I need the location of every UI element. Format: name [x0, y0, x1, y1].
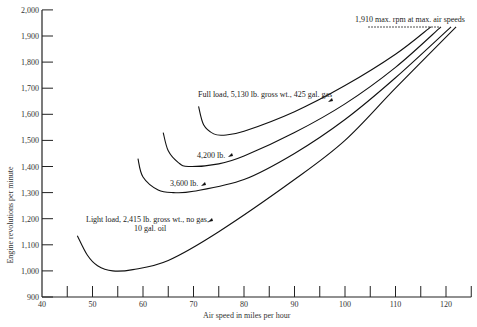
y-tick-label: 1,500: [21, 136, 39, 145]
y-tick-label: 1,100: [21, 241, 39, 250]
arrow-3600-icon: [201, 182, 206, 186]
x-tick-label: 80: [240, 300, 248, 309]
y-tick-label: 1,800: [21, 58, 39, 67]
y-tick-label: 1,400: [21, 163, 39, 172]
axes: 9001,0001,1001,2001,3001,4001,5001,6001,…: [21, 6, 471, 309]
y-tick-label: 1,000: [21, 267, 39, 276]
annotation-full-load: Full load, 5,130 lb. gross wt., 425 gal.…: [198, 90, 332, 99]
curves: [77, 27, 456, 271]
x-tick-label: 100: [339, 300, 351, 309]
series-curve-0: [199, 27, 431, 136]
x-tick-label: 40: [38, 300, 46, 309]
y-tick-label: 1,900: [21, 32, 39, 41]
x-tick-label: 50: [89, 300, 97, 309]
arrow-4200-icon: [228, 153, 233, 157]
annotation-4200: 4,200 lb.: [197, 151, 225, 160]
x-tick-label: 120: [440, 300, 452, 309]
x-axis-title: Air speed in miles per hour: [203, 311, 291, 320]
arrow-markers: [201, 98, 333, 222]
annotation-light-load-1: Light load, 2,415 lb. gross wt., no gas,: [86, 215, 209, 224]
y-tick-label: 2,000: [21, 6, 39, 15]
y-tick-label: 1,200: [21, 215, 39, 224]
y-tick-label: 1,300: [21, 189, 39, 198]
chart-canvas: 9001,0001,1001,2001,3001,4001,5001,6001,…: [0, 0, 477, 327]
series-curve-2: [138, 27, 451, 193]
y-axis-title: Engine revolutions per minute: [6, 166, 15, 264]
y-tick-label: 1,700: [21, 84, 39, 93]
x-tick-label: 110: [390, 300, 402, 309]
x-tick-label: 60: [139, 300, 147, 309]
x-tick-label: 90: [291, 300, 299, 309]
x-tick-label: 70: [190, 300, 198, 309]
annotation-3600: 3,600 lb.: [170, 179, 198, 188]
y-tick-label: 1,600: [21, 110, 39, 119]
rpm-vs-airspeed-chart: 9001,0001,1001,2001,3001,4001,5001,6001,…: [0, 0, 477, 327]
annotation-max-rpm: 1,910 max. rpm at max. air speeds: [355, 15, 465, 24]
annotation-light-load-2: 10 gal. oil: [134, 224, 167, 233]
